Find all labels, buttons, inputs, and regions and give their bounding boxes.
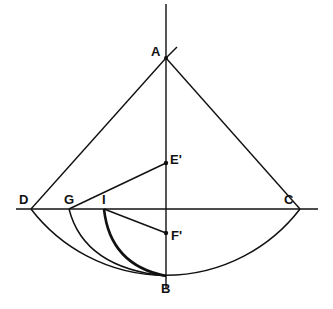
label-a: A [151, 44, 161, 59]
point-f [164, 231, 168, 235]
label-g: G [64, 192, 74, 207]
geometry-diagram: A E' F' D G I C B [0, 0, 333, 309]
label-b: B [161, 281, 170, 296]
label-d: D [19, 192, 28, 207]
point-e [164, 161, 168, 165]
label-i: I [102, 192, 106, 207]
segment-a-c [166, 58, 300, 209]
label-c: C [284, 192, 294, 207]
label-f: F' [171, 228, 182, 243]
segment-g-e [69, 163, 166, 209]
segment-a-d [31, 58, 166, 209]
segment-i-f [104, 209, 166, 233]
point-a [164, 56, 168, 60]
tick-at-a [166, 47, 177, 58]
arc-g-b [69, 209, 166, 276]
label-e: E' [170, 152, 182, 167]
arc-i-b [104, 209, 166, 276]
